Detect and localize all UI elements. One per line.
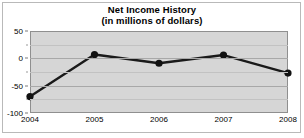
x-axis: 20042005200620072008	[30, 115, 288, 129]
y-tick-major	[25, 113, 28, 114]
gridline-minor	[30, 45, 288, 46]
x-axis-tick-label: 2005	[86, 115, 104, 124]
y-tick-major	[25, 85, 28, 86]
data-point-marker	[91, 51, 98, 58]
data-point-marker	[155, 60, 162, 67]
data-point-marker	[284, 69, 291, 76]
gridline-major	[30, 86, 288, 87]
x-axis-tick-label: 2007	[215, 115, 233, 124]
plot-area	[30, 31, 288, 113]
x-axis-tick-label: 2008	[279, 115, 297, 124]
chart-title: Net Income History	[0, 4, 304, 15]
y-tick-major	[25, 58, 28, 59]
gridline-minor	[30, 99, 288, 100]
y-tick-minor	[26, 44, 28, 45]
chart-title-block: Net Income History (in millions of dolla…	[0, 4, 304, 26]
gridline-minor	[30, 72, 288, 73]
x-axis-tick-label: 2006	[150, 115, 168, 124]
y-tick-major	[25, 31, 28, 32]
x-axis-tick-label: 2004	[21, 115, 39, 124]
y-axis-tick-label: -50	[11, 81, 23, 90]
chart-figure: Net Income History (in millions of dolla…	[0, 0, 304, 138]
y-axis-tick-label: 0	[19, 54, 23, 63]
chart-subtitle: (in millions of dollars)	[0, 15, 304, 26]
y-axis-tick-label: 50	[14, 27, 23, 36]
y-tick-minor	[26, 72, 28, 73]
gridline-major	[30, 58, 288, 59]
y-axis: 500-50-100	[0, 31, 28, 113]
